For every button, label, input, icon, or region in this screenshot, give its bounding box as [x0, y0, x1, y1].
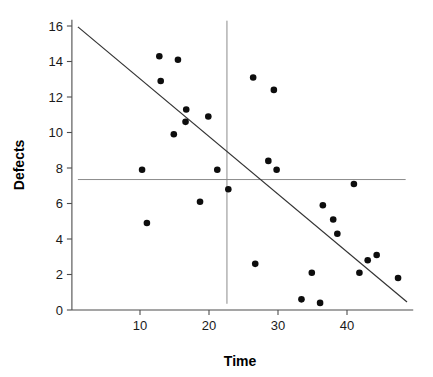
- data-point: [250, 74, 257, 81]
- data-point: [183, 106, 190, 113]
- data-point: [144, 220, 151, 227]
- data-point: [139, 166, 146, 173]
- y-tick-label: 6: [56, 196, 63, 211]
- y-tick-label: 16: [48, 19, 62, 34]
- data-point: [364, 257, 371, 264]
- data-point: [351, 181, 358, 188]
- data-point: [156, 53, 163, 60]
- x-axis-title: Time: [224, 353, 257, 369]
- y-tick-label: 8: [56, 161, 63, 176]
- data-point: [373, 252, 380, 259]
- data-point: [205, 113, 212, 120]
- data-point: [334, 230, 341, 237]
- x-tick-label: 20: [202, 318, 216, 333]
- data-point: [182, 119, 189, 126]
- data-point: [252, 261, 259, 268]
- x-tick-label: 30: [271, 318, 285, 333]
- plot-canvas: 024681012141610203040TimeDefects: [0, 0, 433, 377]
- y-tick-label: 4: [56, 232, 63, 247]
- data-point: [309, 269, 316, 276]
- data-point: [265, 158, 272, 165]
- data-point: [317, 300, 324, 307]
- data-point: [330, 216, 337, 223]
- data-point: [356, 269, 363, 276]
- data-point: [298, 296, 305, 303]
- scatter-plot-figure: 024681012141610203040TimeDefects: [0, 0, 433, 377]
- data-point: [320, 202, 327, 209]
- data-point: [175, 56, 182, 63]
- x-tick-label: 10: [133, 318, 147, 333]
- y-tick-label: 2: [56, 267, 63, 282]
- regression-line: [78, 27, 407, 302]
- y-tick-label: 0: [56, 303, 63, 318]
- data-point: [225, 186, 232, 193]
- data-point: [157, 78, 164, 85]
- data-point: [273, 166, 280, 173]
- data-point: [171, 131, 178, 138]
- data-point: [395, 275, 402, 282]
- data-point: [197, 198, 204, 205]
- data-point: [271, 87, 278, 94]
- y-tick-label: 14: [48, 54, 62, 69]
- data-point: [214, 166, 221, 173]
- y-axis-title: Defects: [11, 139, 27, 190]
- x-tick-label: 40: [340, 318, 354, 333]
- y-tick-label: 12: [48, 90, 62, 105]
- y-tick-label: 10: [48, 125, 62, 140]
